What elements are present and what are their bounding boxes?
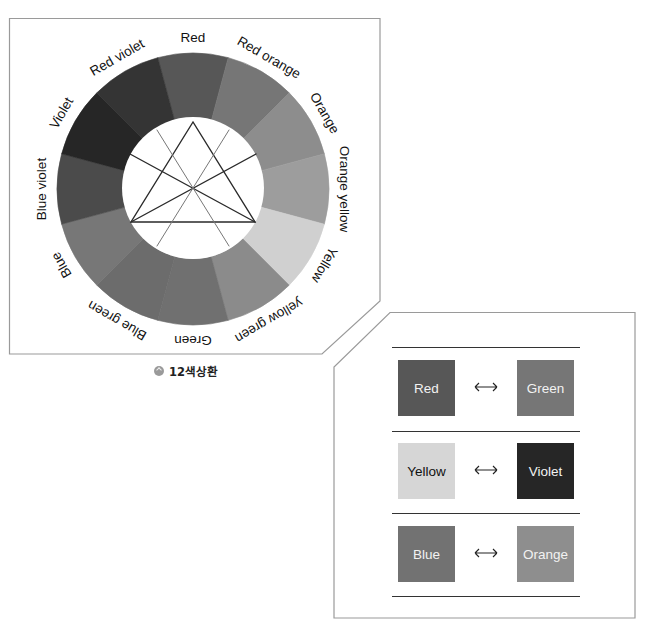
swatch-label: Orange <box>523 547 568 562</box>
swatch-label: Red <box>414 381 439 396</box>
pair-row-0: Red Green <box>392 347 580 429</box>
swatch-label: Yellow <box>407 464 446 479</box>
double-arrow-icon <box>472 543 500 563</box>
circle-badge-icon <box>154 366 164 376</box>
pair-row-2: Blue Orange <box>392 513 580 595</box>
divider <box>392 596 580 597</box>
pair-row-1: Yellow Violet <box>392 430 580 512</box>
swatch-red: Red <box>398 360 455 416</box>
caption-text: 12색상환 <box>169 363 218 379</box>
swatch-yellow: Yellow <box>398 443 455 499</box>
swatch-orange: Orange <box>517 526 574 582</box>
wheel-label: Violet <box>47 95 77 132</box>
swatch-label: Green <box>527 381 565 396</box>
swatch-label: Blue <box>413 547 440 562</box>
wheel-label: Orange yellow <box>337 146 352 233</box>
wheel-label: Blue <box>48 250 75 281</box>
swatch-violet: Violet <box>517 443 574 499</box>
figure-caption: 12색상환 <box>154 362 218 380</box>
swatch-green: Green <box>517 360 574 416</box>
swatch-blue: Blue <box>398 526 455 582</box>
swatch-label: Violet <box>529 464 563 479</box>
double-arrow-icon <box>472 377 500 397</box>
wheel-label: Red <box>181 30 206 45</box>
wheel-label: Blue violet <box>34 158 49 221</box>
double-arrow-icon <box>472 460 500 480</box>
wheel-label: Green <box>174 333 212 348</box>
